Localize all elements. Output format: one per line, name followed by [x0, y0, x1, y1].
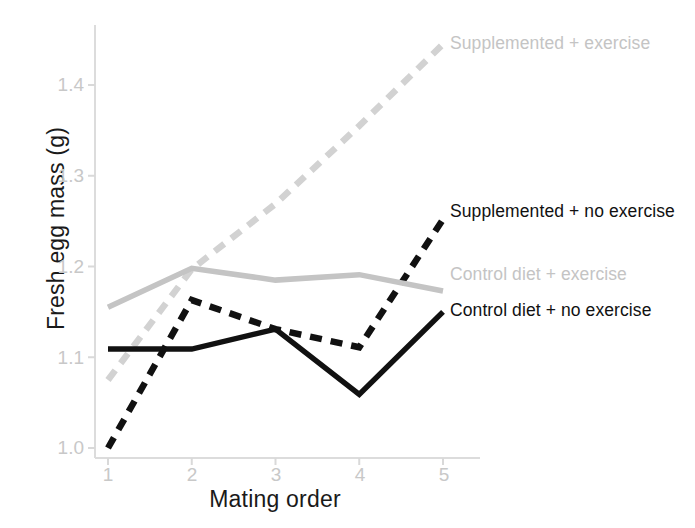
- series-label: Control diet + no exercise: [450, 300, 652, 321]
- chart-figure: Fresh egg mass (g) Mating order 1.41.31.…: [0, 0, 695, 528]
- y-axis-title: Fresh egg mass (g): [43, 79, 70, 379]
- x-tick-label: 5: [432, 464, 456, 486]
- x-tick-label: 4: [348, 464, 372, 486]
- x-tick-label: 1: [96, 464, 120, 486]
- y-tick-label: 1.1: [30, 347, 84, 369]
- series-label: Control diet + exercise: [450, 264, 627, 285]
- axes: [88, 25, 480, 465]
- x-axis-title: Mating order: [95, 486, 455, 513]
- series-line: [108, 219, 443, 448]
- y-tick-label: 1.2: [30, 256, 84, 278]
- x-tick-label: 2: [180, 464, 204, 486]
- series-label: Supplemented + no exercise: [450, 201, 675, 222]
- y-tick-label: 1.0: [30, 437, 84, 459]
- x-tick-label: 3: [264, 464, 288, 486]
- y-tick-marks: [88, 85, 95, 448]
- y-tick-label: 1.3: [30, 165, 84, 187]
- series-label: Supplemented + exercise: [450, 33, 650, 54]
- data-series-group: [108, 44, 443, 448]
- y-tick-label: 1.4: [30, 74, 84, 96]
